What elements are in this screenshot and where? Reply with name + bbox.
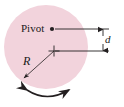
distance-label-d: d [105,34,111,45]
pivot-point-marker [50,27,54,31]
diagram-canvas [0,0,124,107]
disk [4,5,88,89]
figure-container: Pivot d R [0,0,124,107]
pivot-label: Pivot [21,23,44,34]
radius-label-r: R [23,55,30,67]
swing-arc-arrow [27,90,69,97]
